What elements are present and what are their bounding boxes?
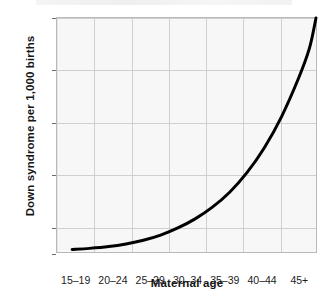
scan-artifact: [36, 0, 292, 5]
y-tick-mark: [52, 228, 56, 229]
data-curve: [57, 18, 316, 252]
y-axis-title: Down syndrome per 1,000 births: [24, 11, 36, 241]
y-tick-mark: [52, 254, 56, 255]
x-axis-title: Maternal age: [56, 277, 318, 289]
y-tick-mark: [52, 175, 56, 176]
y-tick-mark: [52, 123, 56, 124]
y-tick-mark: [52, 18, 56, 19]
plot-area: 026101418 15–1920–2425–2930–3435–3940–44…: [56, 17, 317, 253]
chart-figure: Down syndrome per 1,000 births 026101418…: [0, 0, 330, 298]
y-tick-mark: [52, 70, 56, 71]
